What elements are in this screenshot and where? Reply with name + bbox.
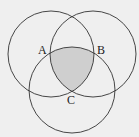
label-b: B bbox=[97, 43, 105, 57]
venn-diagram: A B C bbox=[0, 0, 139, 137]
label-c: C bbox=[67, 93, 75, 107]
label-a: A bbox=[38, 43, 47, 57]
